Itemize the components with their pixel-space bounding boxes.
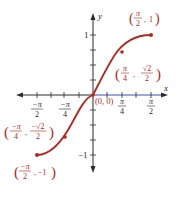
label-pi-over-4-sqrt2-over-2: ( π 4 , √2 2 ) (115, 64, 161, 83)
point-pi-over-2 (149, 33, 153, 37)
svg-text:2: 2 (36, 132, 40, 141)
svg-text:−π: −π (20, 162, 30, 171)
x-axis-right-arrow-icon (161, 93, 168, 98)
label-pi-over-2-1: ( π 2 , 1 ) (129, 9, 160, 28)
point-neg-pi-over-2 (35, 153, 39, 157)
point-neg-pi-over-4 (63, 135, 67, 139)
y-axis-down-arrow-icon (91, 166, 96, 173)
svg-text:,: , (133, 70, 135, 79)
svg-text:−1: −1 (38, 168, 47, 177)
svg-text:,: , (25, 128, 27, 137)
svg-text:π: π (149, 97, 154, 106)
label-neg-pi-over-4-neg-sqrt2-over-2: ( −π 4 , −√2 2 ) (4, 122, 54, 141)
svg-text:−π: −π (60, 100, 70, 109)
svg-text:): ) (51, 164, 56, 181)
svg-text:−π: −π (11, 122, 21, 131)
y-tick-label-1: 1 (84, 30, 89, 40)
x-tick-label-pi-over-2: π 2 (147, 97, 155, 116)
svg-text:4: 4 (120, 107, 124, 116)
x-tick-label-neg-pi-over-4: −π 4 (59, 100, 71, 119)
svg-text:): ) (155, 11, 160, 27)
x-axis-left-arrow-icon (16, 93, 23, 98)
svg-text:): ) (156, 66, 161, 83)
svg-text:(: ( (129, 11, 134, 27)
svg-text:2: 2 (149, 107, 153, 116)
svg-text:,: , (144, 15, 146, 24)
svg-text:π: π (120, 97, 125, 106)
svg-text:2: 2 (145, 74, 149, 83)
sine-graph: x y 1 −1 −π 2 −π 4 π 4 π 2 (0, 0) ( π 2 … (0, 0, 177, 205)
svg-text:√2: √2 (143, 64, 151, 73)
label-neg-pi-over-2-neg-1: ( −π 2 , −1 ) (14, 162, 56, 181)
svg-text:2: 2 (23, 172, 27, 181)
svg-text:4: 4 (123, 74, 127, 83)
y-axis-label: y (97, 11, 102, 21)
svg-text:π: π (123, 64, 128, 73)
svg-text:(: ( (14, 164, 19, 181)
svg-text:(: ( (4, 124, 9, 141)
y-tick-label-neg-1: −1 (78, 150, 88, 160)
svg-text:1: 1 (149, 15, 153, 24)
svg-text:2: 2 (136, 19, 140, 28)
svg-text:): ) (49, 124, 54, 141)
x-tick-label-neg-pi-over-2: −π 2 (31, 100, 43, 119)
svg-text:,: , (34, 168, 36, 177)
svg-text:4: 4 (63, 110, 67, 119)
svg-text:(: ( (115, 66, 120, 83)
x-tick-label-pi-over-4: π 4 (118, 97, 126, 116)
svg-text:−√2: −√2 (32, 122, 45, 131)
origin-label: (0, 0) (95, 96, 114, 106)
svg-text:−π: −π (32, 100, 42, 109)
svg-text:4: 4 (14, 132, 18, 141)
svg-text:π: π (136, 9, 141, 18)
point-pi-over-4 (120, 50, 124, 54)
x-axis-label: x (163, 83, 168, 93)
svg-text:2: 2 (35, 110, 39, 119)
y-axis-up-arrow-icon (91, 13, 96, 20)
